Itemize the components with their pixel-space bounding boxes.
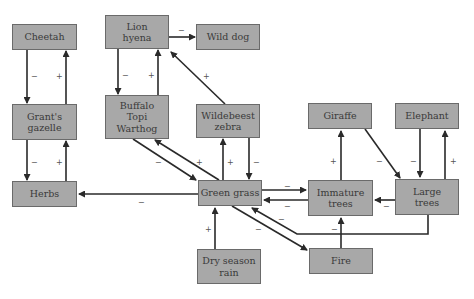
sign-elephant-largetrees: − [410,158,417,166]
node-dry-season-rain: Dry season rain [197,249,261,284]
node-lion-hyena: Lion hyena [105,15,169,49]
node-green-grass: Green grass [198,180,262,206]
node-giraffe: Giraffe [308,103,372,129]
sign-largetrees-elephant: + [450,158,457,166]
node-buffalo-topi-warthog: Buffalo Topi Warthog [105,95,169,139]
sign-buffalo-lion: + [148,72,155,80]
sign-grass-buffalo: + [196,159,203,167]
sign-largetrees-immature: − [383,203,390,211]
sign-fire-immature: − [331,226,338,234]
sign-grass-immature: − [284,183,291,191]
node-elephant: Elephant [395,103,459,129]
sign-grass-fire: − [255,226,262,234]
node-grants-gazelle: Grant's gazelle [12,104,77,140]
sign-grass-herbs: − [138,199,145,207]
sign-immature-grass: − [284,203,291,211]
sign-gazelle-herbs: − [31,159,38,167]
node-wildebeest-zebra: Wildebeest zebra [196,104,260,138]
sign-herbs-gazelle: + [56,159,63,167]
edge-giraffe-to-largetrees [365,129,400,178]
node-wild-dog: Wild dog [196,24,260,50]
sign-lion-wilddog: − [178,27,185,35]
sign-largetrees-grass: − [278,216,285,224]
node-immature-trees: Immature trees [308,180,373,216]
sign-immature-giraffe: + [330,158,337,166]
node-large-trees: Large trees [395,179,459,215]
edge-wildebeest-to-lion [171,52,225,104]
sign-wildebeest-lion: + [203,73,210,81]
sign-grass-wildebeest: + [227,159,234,167]
node-fire: Fire [309,248,373,274]
sign-buffalo-grass: − [155,159,162,167]
sign-wildebeest-grass: − [253,159,260,167]
food-web-diagram: Cheetah Lion hyena Wild dog Grant's gaze… [0,0,474,299]
sign-lion-buffalo: − [122,72,129,80]
sign-rain-grass: + [205,226,212,234]
sign-cheetah-gazelle: − [31,73,38,81]
sign-gazelle-cheetah: + [56,73,63,81]
node-cheetah: Cheetah [12,24,77,50]
node-herbs: Herbs [12,181,77,207]
edge-grass-to-fire [232,206,307,250]
sign-giraffe-largetrees: − [376,158,383,166]
